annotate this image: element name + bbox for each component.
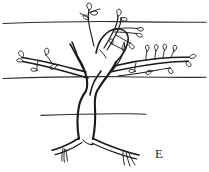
leaf-right-5 — [189, 54, 196, 58]
trunk-right-contour — [93, 62, 116, 139]
branch-center-twig-b — [100, 50, 106, 58]
branch-right-twig-a — [146, 51, 147, 60]
leaf-right-7 — [129, 69, 135, 72]
wire-bottom-line — [41, 114, 146, 116]
root-center — [83, 140, 93, 145]
trunk-and-roots-group — [52, 58, 139, 167]
leaf-right-4 — [173, 45, 177, 51]
leaf-upper-left-2 — [90, 11, 98, 15]
tree-line-drawing — [0, 0, 209, 172]
branch-upper-right-twig-b — [114, 32, 136, 34]
branch-upper-left-group — [80, 3, 100, 46]
branch-upper-left-twig-a — [80, 13, 89, 18]
leaf-right-8 — [168, 68, 173, 74]
leaf-upper-right-3 — [137, 27, 143, 31]
limb-group — [70, 29, 128, 75]
leaf-upper-left-1 — [87, 3, 92, 10]
leaf-right-6 — [186, 61, 191, 67]
wire-top-line — [3, 22, 206, 24]
plate-letter-label: E — [155, 147, 163, 160]
root-right-tip-fringe-1 — [123, 151, 125, 165]
leaf-right-1 — [145, 45, 149, 51]
leaf-upper-right-1 — [117, 9, 121, 16]
leaf-left-2 — [17, 59, 23, 62]
branch-right-twig-c — [163, 50, 165, 58]
leaf-left-3 — [45, 48, 49, 55]
branch-right-twig-d — [171, 51, 174, 58]
branch-left-group — [17, 48, 88, 78]
branch-upper-right-twig-a — [115, 28, 137, 29]
leaf-right-3 — [163, 44, 167, 50]
leaf-upper-right-5 — [129, 43, 134, 49]
trunk-fork-inner-line — [90, 71, 101, 95]
branch-left-twig-b — [37, 61, 38, 71]
leaf-left-4 — [31, 68, 37, 71]
root-left-tip-fringe-1 — [62, 149, 63, 162]
branch-right-twig-b — [155, 51, 156, 60]
root-left-tip-fringe-3 — [64, 149, 65, 162]
leaf-left-1 — [19, 51, 24, 58]
figure-container: E — [0, 0, 209, 172]
root-right-tip-fringe-3 — [129, 154, 135, 166]
branch-center-twig-a — [112, 44, 123, 50]
leaf-upper-right-2 — [121, 17, 127, 21]
root-left-outer — [52, 138, 79, 150]
leaf-right-2 — [154, 45, 158, 51]
leaf-upper-right-4 — [136, 33, 142, 37]
